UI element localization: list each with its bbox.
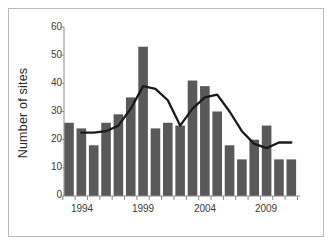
bar-1995: [77, 128, 87, 196]
bar-2004: [188, 81, 198, 196]
bar-1994: [64, 123, 74, 196]
chart-figure: Number of sites 60 50 40 30 20 10 0 1994…: [0, 0, 332, 245]
bar-2002: [163, 123, 173, 196]
bar-2001: [151, 128, 161, 196]
plot-area: Number of sites 60 50 40 30 20 10 0 1994…: [0, 0, 332, 245]
bar-2000: [138, 47, 148, 196]
bar-2006: [212, 112, 222, 197]
trend-line: [81, 86, 291, 148]
bar-2003: [175, 126, 185, 196]
bar-2010: [262, 126, 272, 196]
trend-line-group: [81, 86, 291, 148]
bar-1997: [101, 123, 111, 196]
bar-2012: [287, 159, 297, 196]
chart-canvas: [0, 0, 332, 245]
bar-2007: [225, 145, 235, 196]
bar-2005: [200, 86, 210, 196]
bar-2008: [237, 159, 247, 196]
bar-2011: [274, 159, 284, 196]
bars-group: [64, 47, 296, 196]
bar-1996: [89, 145, 99, 196]
bar-2009: [249, 140, 259, 196]
